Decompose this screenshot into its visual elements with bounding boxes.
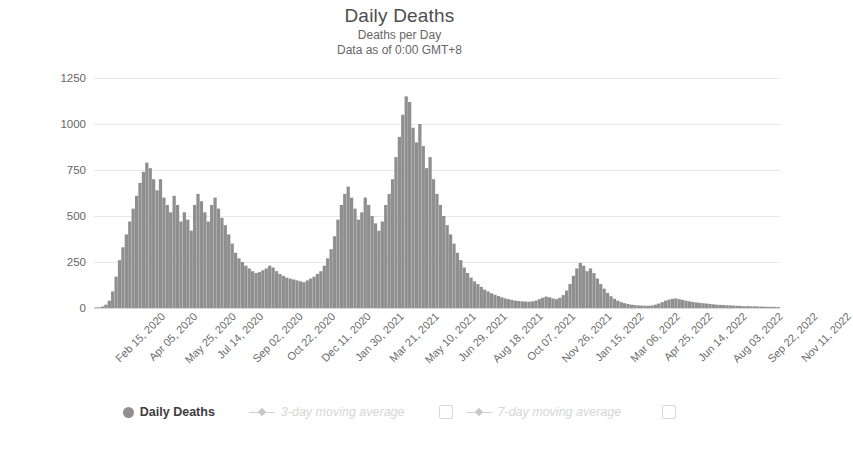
- bar[interactable]: [582, 266, 585, 308]
- bar[interactable]: [510, 300, 513, 308]
- bar[interactable]: [463, 268, 466, 308]
- bar[interactable]: [551, 298, 554, 308]
- bar[interactable]: [524, 302, 527, 308]
- legend-trailing-checkbox[interactable]: [662, 405, 676, 419]
- bar[interactable]: [603, 289, 606, 308]
- bar[interactable]: [271, 268, 274, 308]
- bar[interactable]: [306, 280, 309, 308]
- bar[interactable]: [207, 222, 210, 308]
- bar[interactable]: [347, 187, 350, 308]
- bar[interactable]: [285, 278, 288, 308]
- bar[interactable]: [753, 306, 756, 308]
- bar[interactable]: [196, 194, 199, 308]
- bar[interactable]: [111, 291, 114, 308]
- bar[interactable]: [210, 205, 213, 308]
- bar[interactable]: [329, 249, 332, 308]
- bar[interactable]: [94, 307, 97, 308]
- bar[interactable]: [254, 273, 257, 308]
- bar[interactable]: [565, 291, 568, 308]
- bar[interactable]: [316, 274, 319, 308]
- bar[interactable]: [231, 244, 234, 308]
- bar[interactable]: [364, 198, 367, 308]
- bar[interactable]: [661, 302, 664, 308]
- bar[interactable]: [688, 301, 691, 308]
- bar[interactable]: [514, 301, 517, 308]
- bar[interactable]: [432, 179, 435, 308]
- bar[interactable]: [319, 271, 322, 308]
- bar[interactable]: [121, 247, 124, 308]
- bar[interactable]: [712, 304, 715, 308]
- bar[interactable]: [132, 209, 135, 308]
- bar[interactable]: [596, 279, 599, 308]
- bar[interactable]: [323, 266, 326, 308]
- bar[interactable]: [405, 96, 408, 308]
- bar[interactable]: [555, 299, 558, 308]
- bar[interactable]: [708, 304, 711, 308]
- bar[interactable]: [299, 281, 302, 308]
- bar[interactable]: [637, 305, 640, 308]
- bar[interactable]: [312, 277, 315, 308]
- bar[interactable]: [562, 295, 565, 308]
- bar[interactable]: [261, 270, 264, 308]
- bar[interactable]: [654, 305, 657, 308]
- bar[interactable]: [640, 306, 643, 308]
- bar[interactable]: [585, 271, 588, 308]
- bar[interactable]: [473, 281, 476, 308]
- bar[interactable]: [370, 216, 373, 308]
- bar[interactable]: [357, 220, 360, 308]
- bar[interactable]: [401, 115, 404, 308]
- bar[interactable]: [480, 287, 483, 308]
- bar[interactable]: [749, 306, 752, 308]
- bar[interactable]: [691, 302, 694, 308]
- bar[interactable]: [592, 273, 595, 308]
- bar[interactable]: [173, 196, 176, 308]
- bar[interactable]: [517, 301, 520, 308]
- bar[interactable]: [104, 305, 107, 308]
- bar[interactable]: [152, 179, 155, 308]
- bar[interactable]: [418, 124, 421, 308]
- bar[interactable]: [155, 190, 158, 308]
- bar[interactable]: [203, 212, 206, 308]
- bar[interactable]: [486, 291, 489, 308]
- bar[interactable]: [135, 196, 138, 308]
- bar[interactable]: [97, 307, 100, 308]
- bar[interactable]: [681, 300, 684, 308]
- bar[interactable]: [118, 260, 121, 308]
- bar[interactable]: [702, 303, 705, 308]
- bar[interactable]: [251, 271, 254, 308]
- bar[interactable]: [367, 205, 370, 308]
- bar[interactable]: [190, 231, 193, 308]
- bar[interactable]: [360, 212, 363, 308]
- bar[interactable]: [388, 194, 391, 308]
- bar[interactable]: [650, 305, 653, 308]
- bar[interactable]: [623, 303, 626, 308]
- bar[interactable]: [490, 293, 493, 308]
- bar[interactable]: [504, 298, 507, 308]
- bar[interactable]: [459, 260, 462, 308]
- bar[interactable]: [408, 102, 411, 308]
- bar[interactable]: [674, 298, 677, 308]
- bar[interactable]: [183, 212, 186, 308]
- bar[interactable]: [538, 299, 541, 308]
- bar[interactable]: [425, 168, 428, 308]
- bar[interactable]: [159, 179, 162, 308]
- bar[interactable]: [698, 303, 701, 308]
- bar[interactable]: [268, 266, 271, 308]
- bar[interactable]: [391, 179, 394, 308]
- bar[interactable]: [579, 263, 582, 308]
- bar[interactable]: [326, 258, 329, 308]
- bar[interactable]: [736, 306, 739, 308]
- bar[interactable]: [715, 305, 718, 308]
- bar[interactable]: [336, 220, 339, 308]
- bar[interactable]: [534, 301, 537, 308]
- bar[interactable]: [200, 201, 203, 308]
- bar[interactable]: [244, 266, 247, 308]
- bar[interactable]: [265, 268, 268, 308]
- bar[interactable]: [647, 306, 650, 308]
- bar[interactable]: [483, 290, 486, 308]
- bar[interactable]: [678, 299, 681, 308]
- bar[interactable]: [220, 218, 223, 308]
- bar[interactable]: [398, 137, 401, 308]
- bar[interactable]: [114, 277, 117, 308]
- bar[interactable]: [633, 305, 636, 308]
